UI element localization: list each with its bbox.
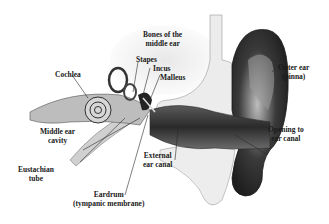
label-middle-ear-cavity: Middle ear cavity	[40, 127, 75, 145]
label-stapes: Stapes	[136, 55, 157, 64]
label-cochlea: Cochlea	[55, 70, 81, 79]
cochlea-shape	[85, 97, 111, 123]
label-eustachian-tube: Eustachian tube	[18, 165, 54, 183]
label-malleus: Malleus	[160, 73, 185, 82]
label-bones-of-middle-ear: Bones of the middle ear	[143, 30, 182, 48]
label-external-ear-canal: External ear canal	[143, 151, 172, 169]
ear-anatomy-diagram: Bones of the middle ear Stapes Incus Mal…	[0, 0, 329, 224]
label-outer-ear: Outer ear (pinna)	[278, 63, 309, 81]
label-opening-to-ear-canal: Opening to ear canal	[268, 125, 304, 143]
label-incus: Incus	[153, 64, 171, 73]
pinna-outer-ear	[232, 29, 288, 196]
label-eardrum: Eardrum (tympanic membrane)	[73, 190, 144, 208]
